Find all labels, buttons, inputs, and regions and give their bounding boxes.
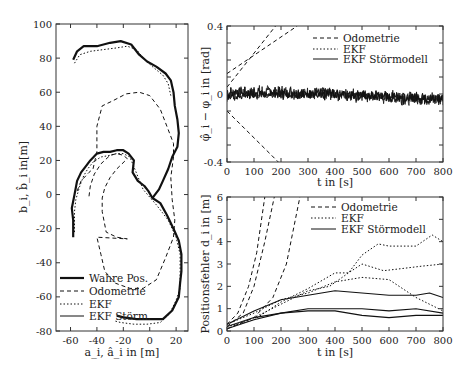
bottomright-xlabel: t in [s]	[317, 346, 353, 359]
x-tick-label: 400	[325, 335, 344, 346]
y-tick-label: 0	[217, 89, 223, 100]
x-tick-label: -60	[62, 335, 78, 346]
left-legend: Wahre Pos. Odometrie EKF EKF Störm.	[60, 272, 151, 322]
left-ylabel: b_i, b̂_i in[m]	[16, 141, 30, 213]
y-tick-label: 60	[39, 87, 52, 98]
x-tick-label: 300	[298, 335, 317, 346]
series-line	[227, 111, 278, 162]
y-tick-label: 80	[39, 53, 52, 64]
series-line	[227, 197, 274, 327]
y-tick-label: -60	[36, 291, 52, 302]
heading-error-plot: 0100200300400500600700800-0.400.4	[204, 21, 453, 178]
y-tick-label: -40	[36, 257, 52, 268]
series-line	[73, 41, 179, 198]
x-tick-label: -40	[89, 335, 105, 346]
legend-wahre-pos: Wahre Pos.	[89, 272, 148, 284]
series-line	[75, 46, 171, 95]
y-tick-label: 0	[217, 326, 223, 337]
x-tick-label: 0	[224, 335, 230, 346]
x-tick-label: 20	[170, 335, 183, 346]
y-tick-label: -80	[36, 326, 52, 337]
figure: -60-40-20020-80-60-40-20020406080100 010…	[0, 0, 470, 376]
legend-ekf: EKF	[89, 298, 112, 310]
legend-ekf-stoerm: EKF Störm.	[89, 310, 151, 322]
x-tick-label: 800	[433, 166, 452, 177]
x-tick-label: 800	[433, 335, 452, 346]
x-tick-label: 200	[271, 335, 290, 346]
y-tick-label: 6	[217, 192, 223, 203]
x-tick-label: 600	[379, 166, 398, 177]
y-tick-label: 2	[217, 281, 223, 292]
series-line	[227, 291, 443, 325]
y-tick-label: 0.4	[207, 21, 223, 32]
bottomright-legend: Odometrie EKF EKF Störmodell	[311, 201, 426, 235]
legend-ekf-stoermodell: EKF Störmodell	[341, 223, 426, 235]
series-line	[227, 197, 300, 329]
x-tick-label: 0	[147, 335, 153, 346]
series-line	[227, 26, 297, 74]
y-tick-label: 100	[33, 19, 52, 30]
x-tick-label: 700	[406, 166, 425, 177]
y-tick-label: -0.4	[204, 157, 223, 168]
y-tick-label: 4	[217, 236, 223, 247]
x-tick-label: 700	[406, 335, 425, 346]
x-tick-label: 500	[352, 335, 371, 346]
topright-legend: Odometrie EKF EKF Störmodell	[313, 32, 428, 65]
y-tick-label: 20	[39, 155, 52, 166]
topright-ylabel: φ̂_i − φ_i in [rad]	[199, 47, 212, 142]
legend-odometrie: Odometrie	[89, 285, 146, 297]
legend-ekf-stoermodell: EKF Störmodell	[343, 53, 428, 65]
y-tick-label: 0	[46, 189, 52, 200]
x-tick-label: 300	[298, 166, 317, 177]
topright-xlabel: t in [s]	[317, 176, 353, 189]
bottomright-ylabel: Positionsfehler d_i in [m]	[199, 194, 212, 333]
left-xlabel: a_i, â_i in [m]	[85, 346, 160, 359]
y-tick-label: 1	[217, 303, 223, 314]
x-tick-label: 100	[244, 166, 263, 177]
x-tick-label: 500	[352, 166, 371, 177]
x-tick-label: 100	[244, 335, 263, 346]
x-tick-label: 200	[271, 166, 290, 177]
position-error-plot: 01002003004005006007008000123456	[217, 192, 453, 347]
y-tick-label: 5	[217, 214, 223, 225]
series-line	[227, 311, 443, 329]
series-line	[77, 92, 175, 288]
y-tick-label: -20	[36, 223, 52, 234]
series-line	[227, 277, 443, 324]
x-tick-label: 0	[224, 166, 230, 177]
series-line	[227, 264, 443, 329]
y-tick-label: 3	[217, 259, 223, 270]
x-tick-label: 600	[379, 335, 398, 346]
series-line	[227, 235, 443, 327]
x-tick-label: -20	[115, 335, 131, 346]
y-tick-label: 40	[39, 121, 52, 132]
